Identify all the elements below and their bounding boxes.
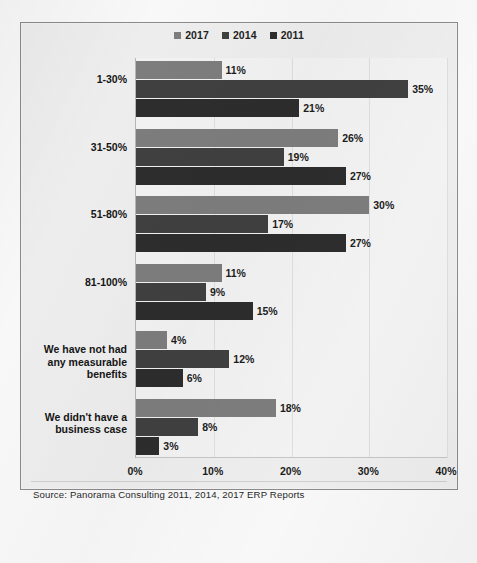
bar-2014[interactable] (136, 80, 408, 98)
category-label: 31-50% (28, 141, 136, 154)
bar-row[interactable]: 15% (136, 302, 448, 320)
bar-value-label: 21% (299, 102, 324, 114)
bar-2017[interactable] (136, 129, 338, 147)
chart-frame: 201720142011 1-30%11%35%21%31-50%26%19%2… (20, 22, 458, 490)
bar-value-label: 6% (183, 372, 202, 384)
legend-label: 2011 (281, 30, 304, 41)
x-tick-label: 30% (358, 465, 379, 477)
bar-value-label: 17% (268, 218, 293, 230)
axis-baseline (136, 457, 447, 458)
bar-row[interactable]: 27% (136, 234, 448, 252)
bar-row[interactable]: 11% (136, 264, 448, 282)
bar-value-label: 15% (253, 305, 278, 317)
bar-2014[interactable] (136, 215, 268, 233)
bar-2011[interactable] (136, 234, 346, 252)
bar-2011[interactable] (136, 437, 159, 455)
bar-2014[interactable] (136, 418, 198, 436)
bar-2017[interactable] (136, 196, 369, 214)
category-label: We have not had any measurable benefits (28, 343, 136, 381)
bar-2014[interactable] (136, 350, 229, 368)
x-axis: 0%10%20%30%40% (135, 460, 446, 480)
bar-row[interactable]: 8% (136, 418, 448, 436)
legend-label: 2014 (233, 30, 257, 41)
bar-row[interactable]: 26% (136, 129, 448, 147)
bar-group: We didn't have a business case18%8%3% (136, 399, 448, 456)
legend-item-2011: 2011 (270, 30, 304, 41)
bar-2011[interactable] (136, 99, 299, 117)
bar-value-label: 9% (206, 286, 225, 298)
legend-swatch-icon (222, 32, 229, 39)
bar-row[interactable]: 27% (136, 167, 448, 185)
bar-group: 1-30%11%35%21% (136, 61, 448, 118)
bar-2014[interactable] (136, 148, 284, 166)
bar-value-label: 26% (338, 132, 363, 144)
bar-row[interactable]: 12% (136, 350, 448, 368)
bar-group: We have not had any measurable benefits4… (136, 331, 448, 388)
legend-item-2017: 2017 (174, 30, 209, 41)
x-tick-label: 0% (127, 465, 142, 477)
bar-row[interactable]: 30% (136, 196, 448, 214)
bar-row[interactable]: 18% (136, 399, 448, 417)
bar-2017[interactable] (136, 61, 222, 79)
source-divider (31, 481, 447, 482)
bar-value-label: 11% (222, 64, 246, 76)
bar-group: 81-100%11%9%15% (136, 264, 448, 321)
bar-row[interactable]: 4% (136, 331, 448, 349)
bar-row[interactable]: 35% (136, 80, 448, 98)
bar-value-label: 30% (369, 199, 394, 211)
x-tick-label: 40% (435, 465, 456, 477)
bar-2017[interactable] (136, 331, 167, 349)
bar-value-label: 27% (346, 237, 371, 249)
bar-2017[interactable] (136, 264, 222, 282)
chart-legend: 201720142011 (21, 30, 457, 41)
bar-row[interactable]: 11% (136, 61, 448, 79)
bar-value-label: 3% (159, 440, 178, 452)
bar-value-label: 11% (222, 267, 246, 279)
bar-2011[interactable] (136, 302, 253, 320)
bar-row[interactable]: 3% (136, 437, 448, 455)
x-tick-label: 20% (280, 465, 301, 477)
bar-row[interactable]: 6% (136, 369, 448, 387)
x-tick-label: 10% (202, 465, 223, 477)
bar-value-label: 4% (167, 334, 186, 346)
bar-value-label: 27% (346, 170, 371, 182)
bar-2014[interactable] (136, 283, 206, 301)
legend-label: 2017 (185, 30, 209, 41)
source-note: Source: Panorama Consulting 2011, 2014, … (33, 489, 305, 500)
bar-row[interactable]: 17% (136, 215, 448, 233)
legend-swatch-icon (174, 32, 181, 39)
legend-item-2014: 2014 (222, 30, 257, 41)
bar-2011[interactable] (136, 369, 183, 387)
category-label: 51-80% (28, 208, 136, 221)
bar-group: 31-50%26%19%27% (136, 129, 448, 186)
bar-row[interactable]: 9% (136, 283, 448, 301)
category-label: We didn't have a business case (28, 411, 136, 436)
bar-row[interactable]: 21% (136, 99, 448, 117)
bar-value-label: 8% (198, 421, 217, 433)
bar-value-label: 19% (284, 151, 309, 163)
plot-area: 1-30%11%35%21%31-50%26%19%27%51-80%30%17… (135, 58, 447, 458)
bar-group: 51-80%30%17%27% (136, 196, 448, 253)
legend-swatch-icon (270, 32, 277, 39)
bar-2017[interactable] (136, 399, 276, 417)
bar-2011[interactable] (136, 167, 346, 185)
category-label: 81-100% (28, 276, 136, 289)
category-label: 1-30% (28, 73, 136, 86)
bar-value-label: 12% (229, 353, 254, 365)
chart-page: 201720142011 1-30%11%35%21%31-50%26%19%2… (0, 0, 477, 563)
bar-value-label: 35% (408, 83, 433, 95)
bar-row[interactable]: 19% (136, 148, 448, 166)
bar-value-label: 18% (276, 402, 301, 414)
